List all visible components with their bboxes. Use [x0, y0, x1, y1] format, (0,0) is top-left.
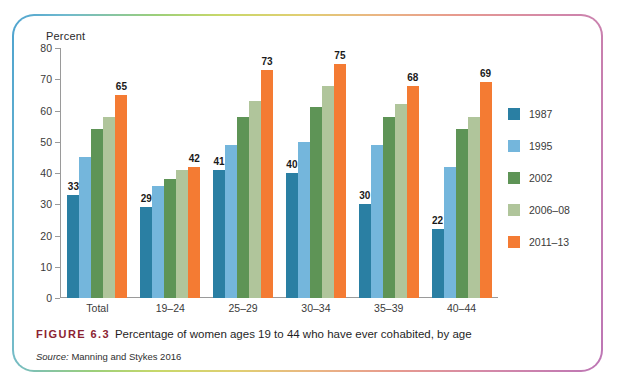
bar[interactable]: [188, 167, 200, 298]
legend-item[interactable]: 2006–08: [508, 204, 588, 216]
legend-label: 2002: [529, 172, 552, 184]
bar-group: 417325–29: [213, 48, 273, 298]
x-axis-tick-label: 25–29: [228, 302, 257, 314]
bar[interactable]: [298, 142, 310, 298]
y-axis-tick: [55, 48, 60, 49]
bar-group: 306835–39: [359, 48, 419, 298]
figure-source: Source: Manning and Stykes 2016: [36, 351, 181, 362]
legend-item[interactable]: 2002: [508, 172, 588, 184]
bar[interactable]: [334, 64, 346, 298]
bar-column[interactable]: [298, 48, 310, 298]
x-axis-tick-label: 35–39: [374, 302, 403, 314]
y-axis-tick: [55, 142, 60, 143]
y-axis-tick: [55, 267, 60, 268]
bar-column[interactable]: [322, 48, 334, 298]
bar[interactable]: [67, 195, 79, 298]
bar-column[interactable]: [395, 48, 407, 298]
bar[interactable]: [140, 207, 152, 298]
bar[interactable]: [103, 117, 115, 298]
bar[interactable]: [444, 167, 456, 298]
bar-column[interactable]: [310, 48, 322, 298]
bar[interactable]: [407, 86, 419, 299]
figure-page: Percent 01020304050607080 3365Total29421…: [0, 0, 619, 386]
y-axis-tick-label: 70: [40, 73, 52, 85]
bar[interactable]: [249, 101, 261, 298]
bar-column[interactable]: [444, 48, 456, 298]
bar[interactable]: [383, 117, 395, 298]
bar[interactable]: [79, 157, 91, 298]
bar-column[interactable]: [371, 48, 383, 298]
bar-column[interactable]: 69: [480, 48, 492, 298]
bar[interactable]: [91, 129, 103, 298]
legend-label: 2006–08: [529, 204, 570, 216]
bar[interactable]: [237, 117, 249, 298]
bar-column[interactable]: 29: [140, 48, 152, 298]
y-axis-tick-label: 40: [40, 167, 52, 179]
y-axis-tick-label: 60: [40, 105, 52, 117]
bar-column[interactable]: [249, 48, 261, 298]
bar-column[interactable]: 41: [213, 48, 225, 298]
y-axis-tick-label: 80: [40, 42, 52, 54]
legend-label: 1995: [529, 140, 552, 152]
bar-group: 3365Total: [67, 48, 127, 298]
chart-legend: 1987199520022006–082011–13: [508, 108, 588, 268]
bar[interactable]: [359, 204, 371, 298]
bar-value-label: 65: [116, 81, 127, 92]
bar-groups: 3365Total294219–24417325–29407530–343068…: [61, 48, 498, 298]
legend-item[interactable]: 2011–13: [508, 236, 588, 248]
y-axis-tick-label: 30: [40, 198, 52, 210]
bar-column[interactable]: 40: [286, 48, 298, 298]
bar[interactable]: [115, 95, 127, 298]
caption-text: Percentage of women ages 19 to 44 who ha…: [115, 328, 472, 340]
y-axis-tick-label: 10: [40, 261, 52, 273]
bar-value-label: 22: [432, 215, 443, 226]
bar-value-label: 68: [407, 72, 418, 83]
bar-value-label: 69: [480, 68, 491, 79]
legend-swatch-icon: [508, 172, 520, 184]
legend-label: 1987: [529, 108, 552, 120]
bar[interactable]: [456, 129, 468, 298]
bar[interactable]: [322, 86, 334, 299]
bar-column[interactable]: [103, 48, 115, 298]
legend-item[interactable]: 1995: [508, 140, 588, 152]
bar-value-label: 75: [334, 50, 345, 61]
bar-column[interactable]: 68: [407, 48, 419, 298]
bar[interactable]: [468, 117, 480, 298]
bar-column[interactable]: 42: [188, 48, 200, 298]
bar[interactable]: [225, 145, 237, 298]
bar[interactable]: [432, 229, 444, 298]
legend-item[interactable]: 1987: [508, 108, 588, 120]
bar-column[interactable]: 65: [115, 48, 127, 298]
bar-value-label: 73: [262, 56, 273, 67]
bar[interactable]: [213, 170, 225, 298]
bar-column[interactable]: 22: [432, 48, 444, 298]
bar-column[interactable]: 30: [359, 48, 371, 298]
bar[interactable]: [395, 104, 407, 298]
bar-column[interactable]: 33: [67, 48, 79, 298]
source-text: Manning and Stykes 2016: [71, 351, 181, 362]
bar-column[interactable]: [164, 48, 176, 298]
bar-column[interactable]: [176, 48, 188, 298]
bar[interactable]: [176, 170, 188, 298]
bar-column[interactable]: [468, 48, 480, 298]
bar-column[interactable]: [91, 48, 103, 298]
bar[interactable]: [310, 107, 322, 298]
bar-column[interactable]: 75: [334, 48, 346, 298]
bar[interactable]: [371, 145, 383, 298]
bar-value-label: 41: [214, 156, 225, 167]
bar-column[interactable]: [237, 48, 249, 298]
bar-column[interactable]: [152, 48, 164, 298]
bar[interactable]: [164, 179, 176, 298]
bar-column[interactable]: [383, 48, 395, 298]
bar-column[interactable]: 73: [261, 48, 273, 298]
bar-column[interactable]: [79, 48, 91, 298]
bar-column[interactable]: [456, 48, 468, 298]
bar[interactable]: [261, 70, 273, 298]
bar[interactable]: [286, 173, 298, 298]
y-axis-tick: [55, 204, 60, 205]
bar[interactable]: [480, 82, 492, 298]
bar[interactable]: [152, 186, 164, 299]
x-axis-tick-label: 19–24: [156, 302, 185, 314]
bar-column[interactable]: [225, 48, 237, 298]
legend-swatch-icon: [508, 108, 520, 120]
